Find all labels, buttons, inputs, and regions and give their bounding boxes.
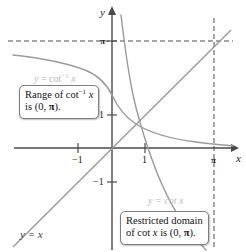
y-tick-label-pi: π [100,37,105,46]
callout-restricted-domain-of-cot: Restricted domain of cot x is (0, π). [120,211,209,245]
callout-domain-line2-suffix: ). [190,227,196,238]
figure-cot-inverse-cot-graph: y x −1 1 π π 1 −1 y = cot−1 x y = cot x … [0,0,246,252]
curve-label-arccot-arg: x [69,73,76,84]
callout-range-line1: Range of cot−1 x [25,89,93,101]
callout-domain-line2: of cot x is (0, π). [126,227,203,239]
callout-range-prefix: Range of [25,89,66,100]
callout-range-line2-prefix: is (0, [25,101,49,112]
callout-range-of-arccot: Range of cot−1 x is (0, π). [19,85,99,119]
callout-range-exponent: −1 [79,88,86,96]
x-tick-label-minus-1: −1 [72,155,83,165]
curve-label-arccot: y = cot−1 x [34,74,76,84]
y-axis-arrowhead [108,6,116,15]
x-axis-arrowhead [231,144,239,152]
callout-domain-line1: Restricted domain [126,215,203,227]
callout-domain-line2-mid: is (0, [158,227,184,238]
y-tick-label-1: 1 [99,110,104,120]
callout-domain-line2-prefix: of cot [126,227,153,238]
callout-range-line2-suffix: ). [54,101,60,112]
y-axis-label: y [100,7,105,18]
x-tick-label-1: 1 [142,155,147,165]
callout-range-fn: cot [66,89,79,100]
curve-label-cot: y = cot x [148,196,183,206]
callout-range-line2: is (0, π). [25,101,93,113]
curve-label-identity: y = x [20,229,43,240]
x-axis-label: x [236,153,241,164]
x-tick-label-pi: π [211,156,216,165]
y-tick-label-minus-1: −1 [93,177,104,187]
curve-label-arccot-exponent: −1 [61,72,68,80]
curve-label-arccot-eq: = [38,73,49,84]
callout-range-var: x [86,89,93,100]
curve-label-arccot-fn: cot [49,73,61,84]
